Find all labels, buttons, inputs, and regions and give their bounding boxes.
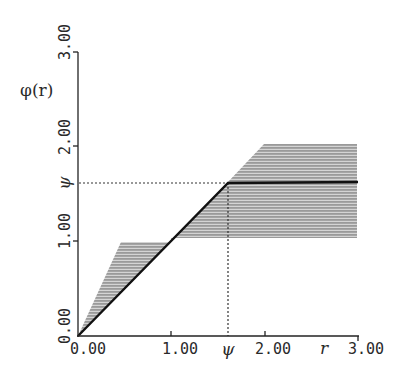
chart: 3.00 2.00 1.00 0.00 ψ φ(r) 0.00 1.00 ψ 2… <box>0 0 410 381</box>
y-tick-1: 1.00 <box>56 213 74 249</box>
y-axis <box>73 52 78 337</box>
y-axis-label: φ(r) <box>20 80 53 100</box>
x-tick-2: 2.00 <box>255 340 291 358</box>
y-tick-0: 0.00 <box>56 308 74 344</box>
y-tick-2: 2.00 <box>56 119 74 155</box>
shaded-region-upper <box>171 144 357 242</box>
y-tick-psi: ψ <box>54 176 74 190</box>
x-tick-psi: ψ <box>221 339 235 359</box>
x-tick-3: 3.00 <box>348 340 384 358</box>
x-tick-1: 1.00 <box>162 340 198 358</box>
x-axis <box>77 331 359 341</box>
x-axis-label: r <box>320 338 329 358</box>
y-tick-3: 3.00 <box>56 24 74 60</box>
x-tick-0: 0.00 <box>70 340 106 358</box>
